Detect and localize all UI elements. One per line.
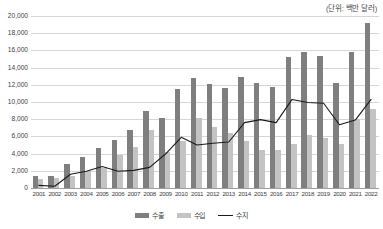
x-tick-label: 2021 [349, 190, 362, 197]
y-tick-label: 16,000 [8, 47, 28, 54]
balance-line-svg [31, 16, 379, 188]
x-tick-label: 2010 [175, 190, 188, 197]
y-tick-label: 4,000 [11, 150, 28, 157]
legend-label-import: 수입 [194, 210, 206, 220]
legend-swatch-import-icon [177, 213, 191, 218]
x-tick-label: 2001 [33, 190, 46, 197]
plot-area [31, 16, 379, 188]
x-tick-label: 2018 [302, 190, 315, 197]
balance-line-layer [31, 16, 379, 188]
x-tick-label: 2011 [191, 190, 203, 197]
legend-item-export[interactable]: 수출 [135, 210, 164, 220]
x-tick-label: 2006 [112, 190, 125, 197]
x-tick-label: 2017 [286, 190, 299, 197]
y-tick-label: 14,000 [8, 64, 28, 71]
chart-legend: 수출수입수지 [0, 208, 383, 222]
zero-gridline [31, 188, 379, 189]
y-tick-label: 8,000 [11, 116, 28, 123]
x-tick-label: 2007 [128, 190, 141, 197]
x-tick-label: 2015 [254, 190, 267, 197]
y-tick-label: 20,000 [8, 13, 28, 20]
x-tick-label: 2009 [159, 190, 172, 197]
y-axis: 02,0004,0006,0008,00010,00012,00014,0001… [0, 16, 30, 188]
legend-label-export: 수출 [152, 210, 164, 220]
x-tick-label: 2004 [80, 190, 93, 197]
y-tick-label: 2,000 [11, 168, 28, 175]
plot-wrapper: 02,0004,0006,0008,00010,00012,00014,0001… [0, 16, 383, 188]
x-tick-label: 2020 [333, 190, 346, 197]
x-tick-label: 2002 [48, 190, 61, 197]
x-tick-label: 2005 [96, 190, 109, 197]
y-tick-label: 18,000 [8, 30, 28, 37]
x-tick-label: 2014 [238, 190, 251, 197]
x-axis: 2001200220032004200520062007200820092010… [31, 190, 379, 202]
legend-swatch-balance-icon [218, 215, 233, 216]
x-tick-label: 2019 [317, 190, 330, 197]
x-tick-label: 2003 [64, 190, 77, 197]
x-tick-label: 2013 [222, 190, 235, 197]
trade-statistics-chart: (단위: 백만 달러) 02,0004,0006,0008,00010,0001… [0, 0, 383, 229]
y-tick-label: 0 [24, 185, 28, 192]
legend-item-balance[interactable]: 수지 [218, 210, 248, 220]
x-tick-label: 2022 [365, 190, 378, 197]
x-tick-label: 2016 [270, 190, 283, 197]
unit-note: (단위: 백만 달러) [326, 2, 377, 13]
legend-label-balance: 수지 [236, 210, 248, 220]
balance-line [39, 99, 371, 186]
x-tick-label: 2008 [143, 190, 156, 197]
y-tick-label: 10,000 [8, 99, 28, 106]
legend-item-import[interactable]: 수입 [177, 210, 206, 220]
y-tick-label: 6,000 [11, 133, 28, 140]
y-tick-label: 12,000 [8, 82, 28, 89]
legend-swatch-export-icon [135, 213, 149, 218]
x-tick-label: 2012 [207, 190, 220, 197]
